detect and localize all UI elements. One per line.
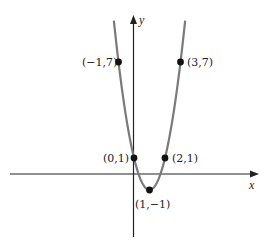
point-label-0-1: (0,1) xyxy=(103,152,129,165)
parabola-graph: y x (−1,7) (3,7) (0,1) (2,1) (1,−1) xyxy=(0,0,269,245)
x-axis-arrow-icon xyxy=(250,171,259,178)
y-axis-arrow-icon xyxy=(130,15,137,24)
x-axis-label: x xyxy=(248,178,255,192)
point-0-1 xyxy=(131,155,138,162)
point-label-3-7: (3,7) xyxy=(187,56,213,69)
point-label-1-neg1: (1,−1) xyxy=(135,198,170,211)
point-3-7 xyxy=(177,59,184,66)
point-label-neg1-7: (−1,7) xyxy=(82,56,117,69)
point-2-1 xyxy=(162,155,169,162)
point-vertex-1-neg1 xyxy=(146,187,153,194)
point-label-2-1: (2,1) xyxy=(172,152,198,165)
y-axis-label: y xyxy=(138,13,145,27)
